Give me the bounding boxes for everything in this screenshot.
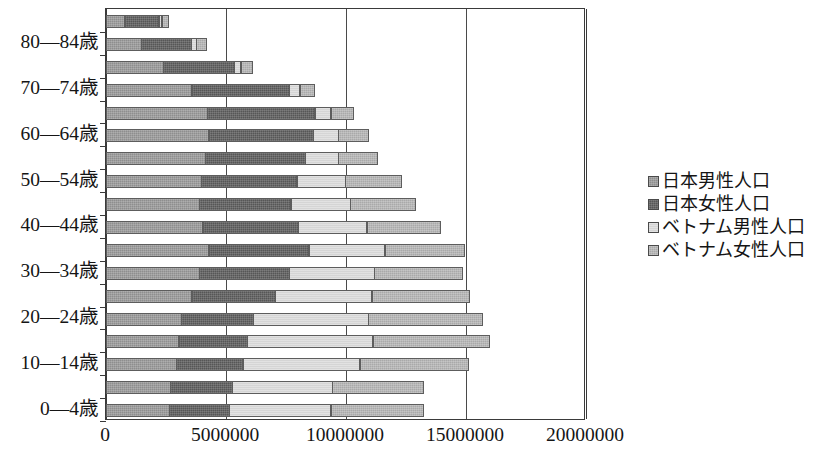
bar-segment (163, 61, 235, 74)
y-tick (100, 123, 106, 124)
bar-row (106, 175, 402, 188)
bar-segment (106, 61, 164, 74)
bar-row (106, 84, 315, 97)
legend-item: 日本女性人口 (648, 193, 824, 215)
bar-segment (367, 221, 441, 234)
bar-segment (192, 290, 276, 303)
y-axis-tick-label: 30—34歳 (21, 261, 100, 281)
y-tick (100, 307, 106, 308)
bar-segment (192, 84, 290, 97)
x-axis-tick-label: 5000000 (191, 424, 259, 446)
y-tick (100, 55, 106, 56)
y-tick (100, 32, 106, 33)
y-tick (100, 261, 106, 262)
bar-row (106, 290, 470, 303)
bar-segment (332, 381, 424, 394)
y-tick (100, 78, 106, 79)
bar-segment (106, 381, 171, 394)
bar-segment (297, 175, 346, 188)
bar-row (106, 198, 416, 211)
y-axis-labels: 0—4歳10—14歳20—24歳30—34歳40—44歳50—54歳60—64歳… (0, 8, 103, 420)
bar-segment (106, 38, 142, 51)
bar-segment (179, 335, 249, 348)
bar-segment (209, 244, 310, 257)
gridline-20000000 (586, 9, 587, 419)
bar-segment (106, 290, 192, 303)
y-tick (100, 192, 106, 193)
y-axis-tick-label: 20—24歳 (21, 307, 100, 327)
bar-segment (291, 198, 351, 211)
y-tick (100, 169, 106, 170)
bar-row (106, 404, 424, 417)
bar-segment (106, 84, 192, 97)
x-axis-tick-label: 0 (100, 424, 110, 446)
bar-segment (275, 290, 372, 303)
legend-label: 日本男性人口 (662, 171, 770, 191)
bar-segment (243, 358, 361, 371)
legend-item: ベトナム女性人口 (648, 239, 824, 261)
bar-segment (247, 335, 373, 348)
y-tick (100, 375, 106, 376)
plot-area (105, 8, 585, 420)
y-tick (100, 398, 106, 399)
bar-segment (106, 198, 200, 211)
bar-segment (106, 244, 209, 257)
bar-segment (106, 175, 202, 188)
x-axis-tick-label: 20000000 (546, 424, 624, 446)
bar-row (106, 244, 465, 257)
legend-swatch-icon (648, 222, 659, 233)
bar-segment (196, 38, 207, 51)
y-tick (100, 421, 106, 422)
y-axis-tick-label: 80—84歳 (21, 32, 100, 52)
bar-segment (205, 152, 306, 165)
bar-segment (331, 404, 425, 417)
y-axis-tick-label: 0—4歳 (40, 399, 99, 419)
bar-row (106, 61, 253, 74)
y-axis-tick-label: 40—44歳 (21, 215, 100, 235)
bar-segment (201, 175, 297, 188)
bar-row (106, 267, 463, 280)
chart-legend: 日本男性人口日本女性人口ベトナム男性人口ベトナム女性人口 (648, 170, 824, 262)
bar-segment (253, 313, 368, 326)
bar-segment (241, 61, 253, 74)
bar-segment (309, 244, 386, 257)
x-axis-tick-label: 10000000 (306, 424, 384, 446)
bar-segment (106, 221, 203, 234)
bar-segment (141, 38, 191, 51)
y-tick (100, 284, 106, 285)
y-axis-tick-label: 10—14歳 (21, 353, 100, 373)
bar-segment (368, 313, 483, 326)
legend-label: ベトナム女性人口 (662, 240, 805, 260)
bar-segment (106, 313, 182, 326)
x-axis-tick-label: 15000000 (426, 424, 504, 446)
legend-label: ベトナム男性人口 (662, 217, 805, 237)
bar-segment (106, 267, 200, 280)
bar-segment (106, 152, 206, 165)
legend-swatch-icon (648, 199, 659, 210)
bar-segment (181, 313, 254, 326)
legend-label: 日本女性人口 (662, 194, 770, 214)
y-tick (100, 215, 106, 216)
bar-row (106, 335, 490, 348)
y-axis-tick-label: 50—54歳 (21, 170, 100, 190)
bar-segment (106, 335, 179, 348)
bar-segment (170, 381, 232, 394)
bar-row (106, 107, 354, 120)
population-bar-chart: 0—4歳10—14歳20—24歳30—34歳40—44歳50—54歳60—64歳… (0, 0, 828, 458)
bars-layer (106, 9, 584, 419)
bar-row (106, 15, 169, 28)
bar-segment (106, 404, 170, 417)
legend-swatch-icon (648, 245, 659, 256)
y-tick (100, 352, 106, 353)
legend-item: 日本男性人口 (648, 170, 824, 192)
x-axis-labels: 05000000100000001500000020000000 (0, 424, 828, 454)
bar-segment (373, 335, 491, 348)
bar-segment (338, 152, 378, 165)
bar-segment (169, 404, 230, 417)
bar-segment (338, 129, 369, 142)
bar-segment (176, 358, 243, 371)
bar-row (106, 313, 483, 326)
bar-segment (385, 244, 465, 257)
bar-segment (203, 221, 299, 234)
bar-segment (372, 290, 470, 303)
